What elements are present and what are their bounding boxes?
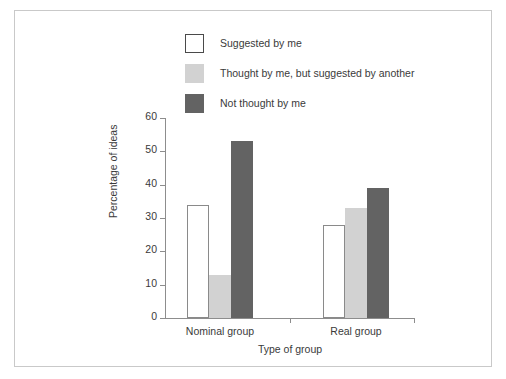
- y-tick-mark: [160, 218, 165, 219]
- y-axis-title: Percentage of ideas: [108, 125, 119, 218]
- y-tick-mark: [160, 151, 165, 152]
- y-tick-label: 60: [145, 111, 157, 122]
- dark-gray-square-swatch-icon: [185, 94, 204, 113]
- x-tick-mark: [414, 318, 415, 323]
- legend-item-suggested-by-me: Suggested by me: [185, 28, 485, 58]
- figure-canvas: Suggested by me Thought by me, but sugge…: [0, 0, 506, 379]
- bar: [367, 188, 389, 318]
- y-tick-mark: [160, 251, 165, 252]
- y-tick-mark: [160, 185, 165, 186]
- light-gray-square-swatch-icon: [185, 64, 204, 83]
- bar: [323, 225, 345, 318]
- bar: [209, 275, 231, 318]
- x-category-label: Real group: [330, 326, 381, 337]
- legend-item-not-thought-by-me: Not thought by me: [185, 88, 485, 118]
- y-tick-mark: [160, 285, 165, 286]
- y-tick-label: 30: [145, 211, 157, 222]
- y-axis-line: [165, 118, 166, 318]
- y-tick-label: 10: [145, 278, 157, 289]
- bar: [187, 205, 209, 318]
- y-tick-label: 50: [145, 144, 157, 155]
- y-tick-mark: [160, 318, 165, 319]
- open-square-swatch-icon: [185, 34, 204, 53]
- x-tick-mark: [290, 318, 291, 323]
- plot-area: 0102030405060 Nominal groupReal group: [165, 118, 415, 318]
- y-tick-label: 0: [151, 311, 157, 322]
- legend-label: Not thought by me: [220, 98, 306, 109]
- bar: [231, 141, 253, 318]
- y-tick-label: 40: [145, 178, 157, 189]
- x-category-label: Nominal group: [186, 326, 254, 337]
- legend-label: Suggested by me: [220, 38, 302, 49]
- legend-label: Thought by me, but suggested by another: [220, 68, 414, 79]
- x-axis-title-text: Type of group: [258, 343, 322, 355]
- bar: [345, 208, 367, 318]
- y-tick-label: 20: [145, 244, 157, 255]
- y-tick-mark: [160, 118, 165, 119]
- chart-legend: Suggested by me Thought by me, but sugge…: [185, 28, 485, 118]
- x-axis-title: Type of group: [0, 344, 506, 355]
- legend-item-thought-by-me: Thought by me, but suggested by another: [185, 58, 485, 88]
